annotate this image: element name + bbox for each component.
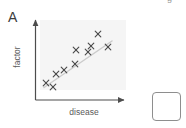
empty-rounded-box[interactable]: [152, 92, 181, 121]
x-axis-label: disease: [52, 107, 116, 117]
panel-letter-label: A: [8, 10, 17, 24]
y-axis-label: factor: [12, 30, 22, 84]
plot-area-background: [40, 20, 126, 90]
figure-panel: g A factor disease: [0, 0, 186, 128]
